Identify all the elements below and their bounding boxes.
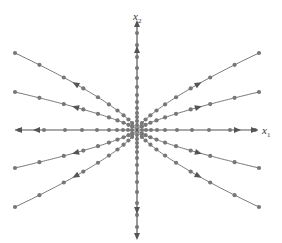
trajectory-dot xyxy=(135,100,139,104)
direction-arrow-icon xyxy=(194,80,203,89)
trajectory-dot xyxy=(135,201,139,205)
trajectory-dot xyxy=(207,128,211,132)
trajectory-dot xyxy=(257,166,261,170)
trajectory-dot xyxy=(135,66,139,70)
trajectory-dot xyxy=(107,102,111,106)
trajectory-dot xyxy=(95,128,99,132)
trajectory-dot xyxy=(80,128,84,132)
trajectory-dot xyxy=(135,115,139,119)
trajectory-dot xyxy=(13,166,17,170)
trajectory-dot xyxy=(126,128,130,132)
direction-arrow-icon xyxy=(71,103,79,111)
trajectory-dot xyxy=(13,205,17,209)
trajectory-dot xyxy=(228,128,232,132)
trajectory-dot xyxy=(62,102,66,106)
trajectory-dot xyxy=(121,113,125,117)
trajectory-dot xyxy=(115,118,119,122)
trajectory-dot xyxy=(135,150,139,154)
trajectory-dot xyxy=(37,160,41,164)
trajectory-dot xyxy=(154,118,158,122)
trajectory-dot xyxy=(135,106,139,110)
trajectory-dot xyxy=(154,138,158,142)
trajectory-curve xyxy=(15,53,137,130)
trajectory-dot xyxy=(81,169,85,173)
trajectory-curve xyxy=(15,130,137,207)
trajectory-dot xyxy=(233,160,237,164)
trajectory-dot xyxy=(135,123,139,127)
trajectory-dot xyxy=(143,123,147,127)
trajectory-dot xyxy=(37,96,41,100)
trajectory-dot xyxy=(135,31,139,35)
trajectory-dot xyxy=(63,128,67,132)
trajectory-dot xyxy=(233,193,237,197)
trajectory-dot xyxy=(126,117,130,121)
trajectory-dot xyxy=(135,85,139,89)
direction-arrow-icon xyxy=(194,103,202,111)
x2-axis-label: x2 xyxy=(132,10,142,25)
trajectory-dot xyxy=(135,156,139,160)
trajectory-dot xyxy=(115,147,119,151)
x1-axis-label: x1 xyxy=(261,124,271,139)
trajectory-dot xyxy=(208,154,212,158)
trajectory-dot xyxy=(13,90,17,94)
trajectory-dot xyxy=(135,145,139,149)
trajectory-dot xyxy=(42,128,46,132)
trajectory-dot xyxy=(174,95,178,99)
trajectory-dot xyxy=(121,128,125,132)
direction-arrow-icon xyxy=(71,80,80,89)
direction-arrow-icon xyxy=(134,46,140,53)
direction-arrow-icon xyxy=(194,149,202,157)
trajectory-dot xyxy=(257,51,261,55)
phase-portrait-svg: x1 x2 xyxy=(0,0,282,243)
trajectory-dot xyxy=(155,128,159,132)
trajectory-dot xyxy=(135,171,139,175)
trajectory-dot xyxy=(135,119,139,123)
trajectory-dot xyxy=(140,135,144,139)
trajectory-dot xyxy=(96,95,100,99)
trajectory-dot xyxy=(135,55,139,59)
direction-arrow-icon xyxy=(15,127,22,133)
trajectory-dot xyxy=(143,138,147,142)
trajectory-curve xyxy=(137,53,259,130)
trajectory-dot xyxy=(135,111,139,115)
trajectory-dot xyxy=(107,115,111,119)
trajectory-dot xyxy=(135,93,139,97)
trajectory-dot xyxy=(135,141,139,145)
trajectory-dot xyxy=(163,141,167,145)
trajectory-dot xyxy=(107,128,111,132)
trajectory-dot xyxy=(174,144,178,148)
trajectory-dot xyxy=(96,161,100,165)
trajectory-dot xyxy=(163,102,167,106)
trajectory-dot xyxy=(135,190,139,194)
trajectory-dot xyxy=(37,193,41,197)
trajectory-dot xyxy=(135,225,139,229)
trajectory-dot xyxy=(143,117,147,121)
trajectory-dot xyxy=(190,128,194,132)
trajectory-dot xyxy=(208,102,212,106)
trajectory-dot xyxy=(62,75,66,79)
trajectory-dot xyxy=(144,128,148,132)
trajectory-dot xyxy=(233,63,237,67)
trajectory-dot xyxy=(126,138,130,142)
trajectory-dot xyxy=(148,135,152,139)
trajectory-dot xyxy=(121,135,125,139)
trajectory-curve xyxy=(137,130,259,207)
trajectory-dot xyxy=(130,128,134,132)
trajectory-dot xyxy=(81,107,85,111)
trajectory-dot xyxy=(135,180,139,184)
trajectory-dot xyxy=(163,153,167,157)
trajectory-dot xyxy=(96,112,100,116)
axes xyxy=(15,22,258,238)
trajectory-dot xyxy=(13,51,17,55)
trajectory-dot xyxy=(208,180,212,184)
trajectory-dot xyxy=(135,137,139,141)
trajectory-dot xyxy=(81,148,85,152)
trajectory-dot xyxy=(149,128,153,132)
trajectory-dot xyxy=(175,128,179,132)
trajectory-dot xyxy=(148,113,152,117)
direction-arrow-icon xyxy=(71,149,79,157)
trajectory-dot xyxy=(163,115,167,119)
trajectory-dot xyxy=(233,96,237,100)
trajectory-dot xyxy=(189,148,193,152)
phase-portrait-diagram: x1 x2 xyxy=(0,0,282,243)
